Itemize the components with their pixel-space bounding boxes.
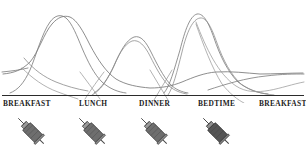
curve-bedtime-crossing-tail [196, 24, 244, 103]
meal-labels-row: BREAKFAST LUNCH DINNER BEDTIME BREAKFAST [0, 98, 306, 111]
meal-label-bedtime: BEDTIME [198, 98, 235, 110]
meal-label-dinner: DINNER [139, 98, 170, 110]
syringe-icon-bedtime [197, 112, 235, 150]
insulin-curves-chart [0, 0, 306, 103]
syringe-icon-dinner [135, 112, 173, 150]
syringe-icon-lunch [73, 112, 111, 150]
meal-label-breakfast-morning: BREAKFAST [3, 98, 51, 110]
insulin-action-profile-figure: BREAKFAST LUNCH DINNER BEDTIME BREAKFAST [0, 0, 306, 153]
curve-right-baseline-shelf [208, 74, 304, 90]
timeline-rule [2, 95, 304, 96]
syringe-icon-breakfast [12, 112, 50, 150]
curve-rapid-breakfast [10, 16, 126, 93]
curve-breakfast-tail [24, 58, 88, 91]
meal-label-lunch: LUNCH [79, 98, 107, 110]
syringe-icons-row [0, 112, 306, 153]
meal-label-breakfast-next: BREAKFAST [259, 98, 306, 110]
curve-rapid-dinner [164, 14, 268, 94]
